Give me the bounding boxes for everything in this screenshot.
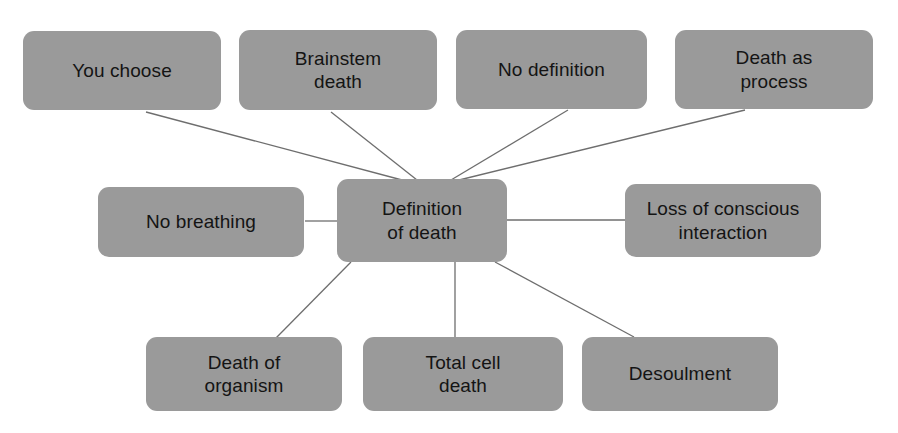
- node-desoulment[interactable]: Desoulment: [582, 337, 778, 411]
- node-label-no-breathing: No breathing: [146, 210, 256, 233]
- edge-you-choose: [146, 112, 402, 180]
- edge-brainstem-death: [331, 112, 417, 180]
- node-loss-of-conscious-interaction[interactable]: Loss of conscious interaction: [625, 184, 821, 257]
- edge-no-definition: [451, 110, 568, 180]
- node-death-as-process[interactable]: Death as process: [675, 30, 873, 109]
- node-label-brainstem-death: Brainstem death: [295, 47, 381, 93]
- node-label-death-of-organism: Death of organism: [205, 351, 284, 397]
- node-no-definition[interactable]: No definition: [456, 30, 647, 109]
- node-label-you-choose: You choose: [72, 59, 172, 82]
- node-label-desoulment: Desoulment: [629, 362, 731, 385]
- edge-desoulment: [495, 262, 634, 337]
- edge-death-as-process: [455, 110, 745, 181]
- node-label-death-as-process: Death as process: [736, 46, 813, 92]
- node-total-cell-death[interactable]: Total cell death: [363, 337, 563, 411]
- node-label-loss-of-conscious-interaction: Loss of conscious interaction: [647, 197, 800, 243]
- edge-death-of-organism: [276, 262, 351, 338]
- node-label-no-definition: No definition: [498, 58, 605, 81]
- node-definition-of-death[interactable]: Definition of death: [337, 179, 507, 262]
- node-death-of-organism[interactable]: Death of organism: [146, 337, 342, 411]
- node-label-total-cell-death: Total cell death: [426, 351, 501, 397]
- node-label-definition-of-death: Definition of death: [382, 197, 462, 243]
- node-you-choose[interactable]: You choose: [23, 31, 221, 110]
- node-no-breathing[interactable]: No breathing: [98, 187, 304, 257]
- node-brainstem-death[interactable]: Brainstem death: [239, 30, 437, 110]
- mind-map-diagram: You chooseBrainstem deathNo definitionDe…: [0, 0, 898, 433]
